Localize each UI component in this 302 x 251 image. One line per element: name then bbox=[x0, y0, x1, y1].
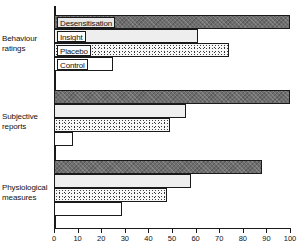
x-axis-tick-label: 70 bbox=[209, 235, 229, 243]
bar-control-group1: Control bbox=[54, 57, 113, 71]
group-label-line2: reports bbox=[2, 122, 52, 132]
group-label-1: Behaviourratings bbox=[2, 34, 52, 54]
bar-control-group3 bbox=[54, 202, 122, 216]
bar-placebo-group2 bbox=[54, 118, 170, 132]
x-axis-tick bbox=[78, 229, 79, 233]
x-axis-tick bbox=[266, 229, 267, 233]
group-label-line2: ratings bbox=[2, 44, 52, 54]
bar-label-desensitisation: Desensitisation bbox=[57, 17, 115, 28]
bar-label-control: Control bbox=[57, 59, 88, 70]
x-axis-tick bbox=[125, 229, 126, 233]
x-axis-tick-label: 20 bbox=[91, 235, 111, 243]
bar-control-group2 bbox=[54, 132, 73, 146]
group-label-line1: Behaviour bbox=[2, 34, 52, 44]
x-axis-tick bbox=[101, 229, 102, 233]
group-label-line1: Physiological bbox=[2, 183, 52, 193]
bar-placebo-group1: Placebo bbox=[54, 43, 229, 57]
x-axis-tick bbox=[54, 229, 55, 233]
x-axis-tick-label: 50 bbox=[162, 235, 182, 243]
bar-desensitisation-group3 bbox=[54, 160, 262, 174]
plot-area: DesensitisationInsightPlaceboControl bbox=[54, 6, 290, 228]
x-axis-tick-label: 10 bbox=[68, 235, 88, 243]
bar-desensitisation-group1: Desensitisation bbox=[54, 15, 290, 29]
x-axis-tick-label: 60 bbox=[186, 235, 206, 243]
x-axis-tick bbox=[243, 229, 244, 233]
bar-insight-group1: Insight bbox=[54, 29, 198, 43]
group-label-2: Subjectivereports bbox=[2, 112, 52, 132]
group-label-3: Physiologicalmeasures bbox=[2, 183, 52, 203]
x-axis-tick-label: 100 bbox=[280, 235, 300, 243]
x-axis-tick-label: 0 bbox=[44, 235, 64, 243]
x-axis-tick bbox=[172, 229, 173, 233]
bar-insight-group3 bbox=[54, 174, 191, 188]
x-axis-tick bbox=[196, 229, 197, 233]
bar-label-placebo: Placebo bbox=[57, 45, 91, 56]
x-axis-tick-label: 90 bbox=[256, 235, 276, 243]
bar-label-insight: Insight bbox=[57, 31, 86, 42]
x-axis-tick-label: 80 bbox=[233, 235, 253, 243]
bar-placebo-group3 bbox=[54, 188, 167, 202]
bar-chart: 0102030405060708090100 BehaviourratingsS… bbox=[0, 0, 302, 251]
x-axis-tick-label: 40 bbox=[138, 235, 158, 243]
bar-insight-group2 bbox=[54, 104, 186, 118]
x-axis-tick-label: 30 bbox=[115, 235, 135, 243]
bar-desensitisation-group2 bbox=[54, 90, 290, 104]
group-label-line1: Subjective bbox=[2, 112, 52, 122]
x-axis-tick bbox=[148, 229, 149, 233]
x-axis-tick bbox=[290, 229, 291, 233]
x-axis-tick bbox=[219, 229, 220, 233]
group-label-line2: measures bbox=[2, 193, 52, 203]
